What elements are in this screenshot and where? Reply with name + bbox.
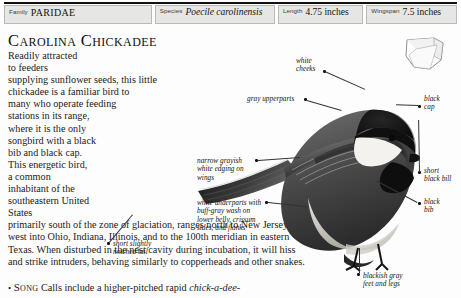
header-field-species: Species Poecile carolinensis <box>155 5 275 24</box>
callout-wing-edging: narrow grayish white edging on wings <box>197 157 244 182</box>
header-field-family: Family PARIDAE <box>4 5 152 24</box>
header-label-length: Length <box>283 7 303 14</box>
callout-white-cheeks: white cheeks <box>296 57 315 74</box>
callout-gray-upperparts: gray upperparts <box>247 95 294 103</box>
header-field-wingspan: Wingspan 7.5 inches <box>366 5 457 24</box>
callout-black-bib: black bib <box>424 198 440 215</box>
callout-dot-feet-and-legs <box>357 273 360 276</box>
callout-black-bib-line-1: bib <box>424 206 440 214</box>
callout-wing-edging-line-2: wings <box>197 174 244 182</box>
callout-gray-upperparts-line-0: gray upperparts <box>247 95 294 103</box>
callout-white-cheeks-line-1: cheeks <box>296 65 315 73</box>
header-value-family: PARIDAE <box>31 7 76 18</box>
header-field-length: Length 4.75 inches <box>278 5 363 24</box>
callout-black-cap-line-1: cap <box>424 103 440 111</box>
song-italic-text: chick-a-dee- <box>189 282 240 293</box>
header-label-wingspan: Wingspan <box>371 7 399 14</box>
top-rule <box>4 2 457 4</box>
page-title: Carolina Chickadee <box>8 31 157 51</box>
callout-feet-and-legs: blackish gray feet and legs <box>363 272 403 289</box>
callout-black-bill-line-1: black bill <box>424 175 451 183</box>
species-header-table: Family PARIDAE Species Poecile carolinen… <box>4 5 457 24</box>
field-guide-page: Family PARIDAE Species Poecile carolinen… <box>0 0 461 298</box>
body-line-5: inhabitant of the southeastern United <box>8 183 89 206</box>
callout-black-cap: black cap <box>424 95 440 112</box>
header-value-wingspan: 7.5 inches <box>403 7 442 17</box>
header-value-species: Poecile carolinensis <box>185 7 262 17</box>
header-value-length: 4.75 inches <box>305 7 348 17</box>
body-line-16: intruders, <box>50 256 89 267</box>
song-bullet: • <box>8 283 11 293</box>
header-label-species: Species <box>160 7 183 14</box>
body-line-17: behaving similarly to <box>92 256 179 267</box>
callout-notched-tail-line-1: notched tail <box>113 248 151 256</box>
callout-dot-black-bib <box>418 202 421 205</box>
callout-underparts-line-3: sides, and flanks <box>197 224 261 232</box>
callout-feet-and-legs-line-1: feet and legs <box>363 280 403 288</box>
song-text: Calls include a higher-pitched rapid <box>41 282 189 293</box>
bird-eye <box>389 135 395 141</box>
callout-black-bill: short black bill <box>424 167 451 184</box>
song-entry: • Song Calls include a higher-pitched ra… <box>8 281 328 294</box>
header-label-family: Family <box>9 8 28 15</box>
callout-underparts: white underparts with buff-gray wash on … <box>197 199 261 233</box>
leader-feet-and-legs <box>359 248 360 273</box>
callout-dot-black-cap <box>418 105 421 108</box>
song-label: Song <box>14 281 39 293</box>
callout-notched-tail: short slightly notched tail <box>113 240 151 257</box>
